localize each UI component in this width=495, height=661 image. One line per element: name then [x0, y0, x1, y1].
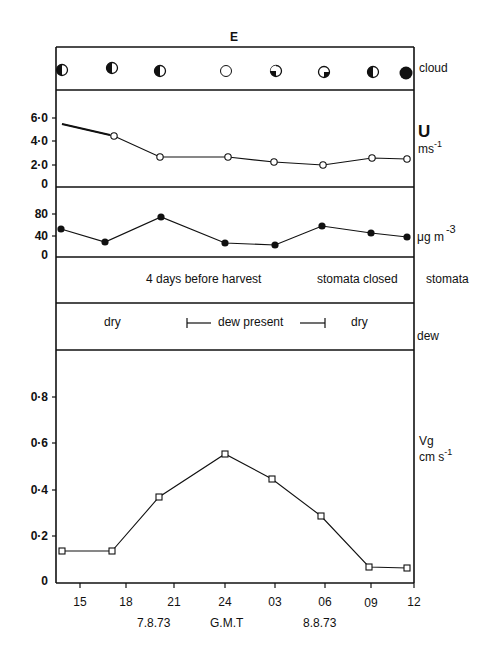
wind-panel: 6·0 4·0 2·0 0 U ms-1	[31, 111, 442, 191]
conc-y-tick: 80	[35, 207, 49, 221]
x-footer-gmt: G.M.T	[210, 616, 244, 630]
cloud-symbol-half-icon	[368, 67, 379, 78]
wind-unit: ms-1	[418, 139, 442, 156]
cloud-panel: cloud	[57, 61, 448, 80]
wind-y-tick: 0	[41, 177, 48, 191]
conc-line	[61, 217, 407, 245]
cloud-symbol-half-icon	[155, 66, 166, 77]
vg-y-tick: 0·8	[31, 390, 49, 404]
panel-label: E	[230, 30, 238, 44]
cloud-symbol-half-icon	[57, 65, 68, 76]
x-tick-label: 15	[73, 595, 87, 609]
cloud-label: cloud	[419, 61, 448, 75]
cloud-symbol-quarter-icon	[319, 67, 330, 78]
dew-present-text: dew present	[218, 315, 284, 329]
x-tick-labels: 15 18 21 24 03 06 09 12	[73, 595, 421, 610]
x-tick-label: 06	[318, 595, 332, 609]
concentration-panel: 80 40 0 μg m-3	[35, 207, 456, 262]
x-tick-label: 03	[268, 595, 282, 609]
wind-y-tick: 2·0	[31, 158, 49, 172]
vg-y-tick: 0·2	[31, 529, 49, 543]
wind-markers	[111, 133, 410, 168]
x-tick-label: 09	[364, 596, 378, 610]
x-footer-left-date: 7.8.73	[137, 616, 171, 630]
x-tick-label: 18	[119, 595, 133, 609]
stomata-text-left: 4 days before harvest	[146, 272, 262, 286]
wind-y-tick: 6·0	[31, 111, 49, 125]
conc-y-tick: 0	[41, 248, 48, 262]
x-footer-right-date: 8.8.73	[303, 616, 337, 630]
wind-symbol: U	[418, 122, 430, 141]
dew-panel: dry dew present dry dew	[104, 315, 439, 343]
x-tick-label: 12	[407, 595, 421, 609]
vg-y-tick: 0·6	[31, 436, 49, 450]
vg-unit: cm s-1	[419, 447, 452, 464]
vg-markers	[59, 451, 410, 571]
cloud-symbol-half-icon	[107, 63, 118, 74]
stomata-panel: 4 days before harvest stomata closed sto…	[146, 272, 469, 286]
x-tick-label: 24	[218, 595, 232, 609]
cloud-symbol-quarter-icon	[271, 66, 282, 77]
dry-left-text: dry	[104, 315, 121, 329]
wind-y-tick: 4·0	[31, 134, 49, 148]
vg-y-tick: 0	[41, 574, 48, 588]
cloud-symbol-clear-icon	[221, 66, 232, 77]
vg-panel: 0·8 0·6 0·4 0·2 0 Vg cm s-1	[31, 390, 453, 630]
wind-line	[62, 124, 407, 165]
conc-y-tick: 40	[35, 229, 49, 243]
stomata-text-right: stomata closed	[317, 272, 398, 286]
cloud-symbol-overcast-icon	[400, 67, 413, 80]
figure-canvas: E	[0, 0, 495, 661]
x-tick-label: 21	[167, 595, 181, 609]
vg-symbol: Vg	[419, 434, 434, 448]
stomata-label: stomata	[426, 272, 469, 286]
dew-label: dew	[417, 329, 439, 343]
conc-unit: μg m-3	[417, 223, 456, 244]
vg-y-tick: 0·4	[31, 483, 49, 497]
dry-right-text: dry	[351, 315, 368, 329]
